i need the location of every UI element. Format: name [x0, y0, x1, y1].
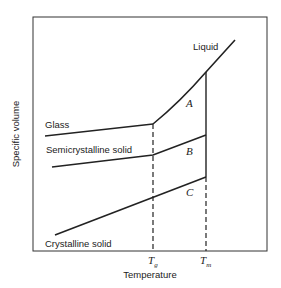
label-liquid: Liquid — [193, 41, 218, 52]
label-glass: Glass — [45, 119, 70, 130]
tick-tg: Tg — [148, 254, 158, 269]
region-label-c: C — [186, 186, 194, 198]
crystalline-line — [55, 177, 206, 235]
liquid-curve — [153, 40, 235, 124]
region-label-b: B — [186, 145, 193, 157]
region-label-a: A — [185, 97, 193, 109]
y-axis-label: Specific volume — [10, 101, 21, 168]
label-semicrystalline: Semicrystalline solid — [46, 144, 132, 155]
label-crystalline: Crystalline solid — [45, 238, 112, 249]
specific-volume-diagram: Liquid Glass Semicrystalline solid Cryst… — [0, 0, 281, 288]
tick-tm: Tm — [200, 254, 211, 269]
x-axis-label: Temperature — [123, 269, 176, 280]
